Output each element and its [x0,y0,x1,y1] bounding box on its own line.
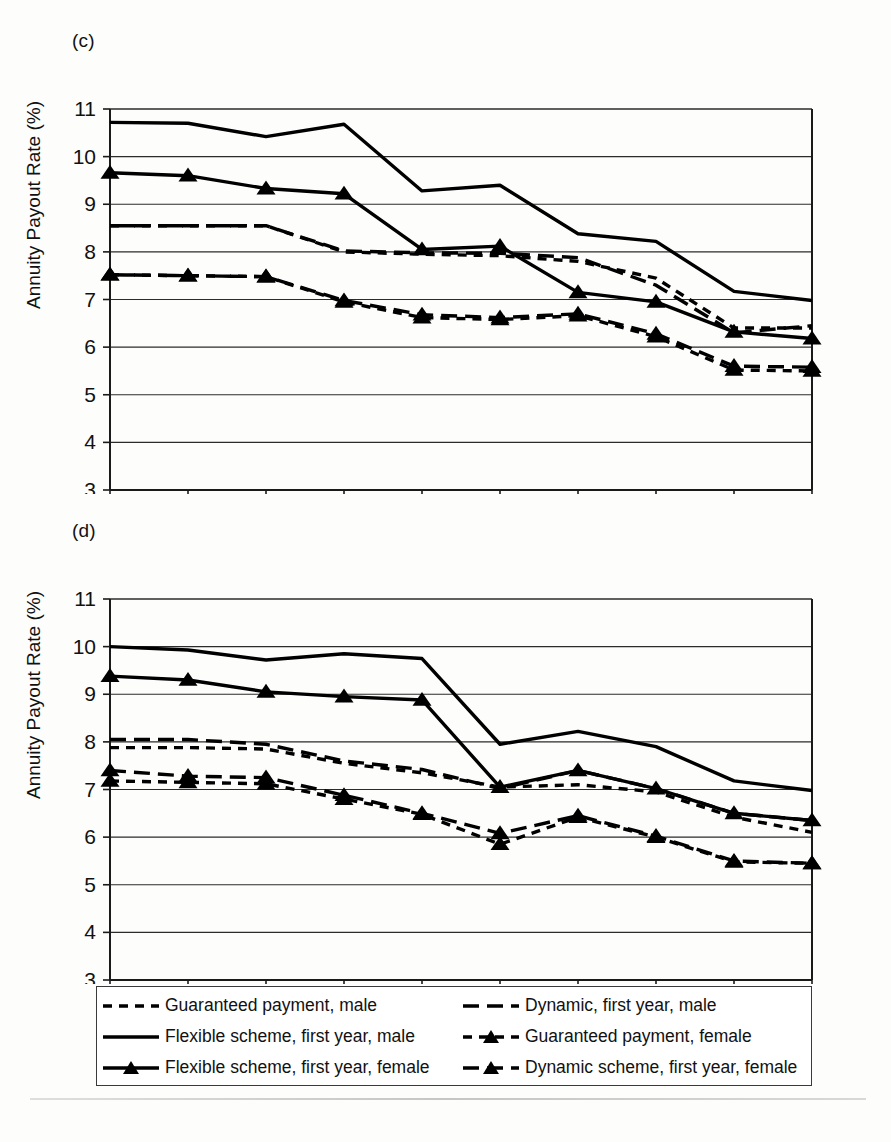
series-marker-triangle [569,284,588,298]
legend-item: Dynamic scheme, first year, female [463,1053,797,1083]
legend-key-dashed-long-line [463,997,519,1015]
legend-item: Flexible scheme, first year, female [103,1053,430,1083]
y-tick-label: 10 [73,635,96,658]
chart-panel-c: (c) Annuity Payout Rate (%) 345678910111… [0,24,891,494]
y-tick-label: 7 [84,288,96,311]
legend-item-label: Flexible scheme, first year, male [165,1028,415,1046]
legend-item-label: Guaranteed payment, female [525,1028,752,1046]
legend-key-dashed-short-line-triangle [463,1028,519,1046]
legend-key-dashed-long-line-triangle [463,1059,519,1077]
y-tick-label: 6 [84,335,96,358]
series-line [110,122,812,300]
legend-key-dashed-short-line [103,997,159,1015]
y-tick-label: 11 [74,587,96,610]
series-marker-triangle [569,762,588,776]
series-line [110,647,812,791]
y-tick-label: 6 [84,825,96,848]
legend-item-label: Dynamic scheme, first year, female [525,1059,797,1077]
series-marker-triangle [647,326,666,340]
legend-item-label: Dynamic, first year, male [525,997,717,1015]
y-tick-label: 9 [84,192,96,215]
series-line [110,770,812,863]
legend-grid: Guaranteed payment, maleDynamic, first y… [97,987,811,1085]
legend-item-label: Flexible scheme, first year, female [165,1059,430,1077]
series-marker-triangle [569,808,588,822]
y-tick-label: 4 [84,430,96,453]
series-marker-triangle [647,828,666,842]
plot-area-d: 3456789101119971998199920002001200220032… [0,514,891,984]
legend-item: Guaranteed payment, female [463,1022,752,1052]
y-tick-label: 8 [84,730,96,753]
legend-item: Flexible scheme, first year, male [103,1022,415,1052]
legend-item-label: Guaranteed payment, male [165,997,377,1015]
plot-svg-c: 3456789101119971998199920002001200220032… [0,24,891,494]
series-line [110,676,812,820]
y-tick-label: 5 [84,383,96,406]
legend-key-solid-line [103,1028,159,1046]
y-tick-label: 11 [74,97,96,120]
y-tick-label: 9 [84,682,96,705]
y-tick-label: 3 [84,478,96,494]
y-tick-label: 7 [84,778,96,801]
scan-artifact-line [30,1098,866,1100]
y-tick-label: 8 [84,240,96,263]
legend-item: Dynamic, first year, male [463,991,717,1021]
plot-area-c: 3456789101119971998199920002001200220032… [0,24,891,494]
y-tick-label: 10 [73,145,96,168]
y-tick-label: 4 [84,920,96,943]
legend-key-solid-line-triangle [103,1059,159,1077]
plot-svg-d: 3456789101119971998199920002001200220032… [0,514,891,984]
series-line [110,226,812,333]
chart-panel-d: (d) Annuity Payout Rate (%) 345678910111… [0,514,891,984]
legend-box: Guaranteed payment, maleDynamic, first y… [96,986,812,1086]
y-tick-label: 5 [84,873,96,896]
y-tick-label: 3 [84,968,96,984]
figure-page: (c) Annuity Payout Rate (%) 345678910111… [0,0,891,1142]
legend-item: Guaranteed payment, male [103,991,377,1021]
